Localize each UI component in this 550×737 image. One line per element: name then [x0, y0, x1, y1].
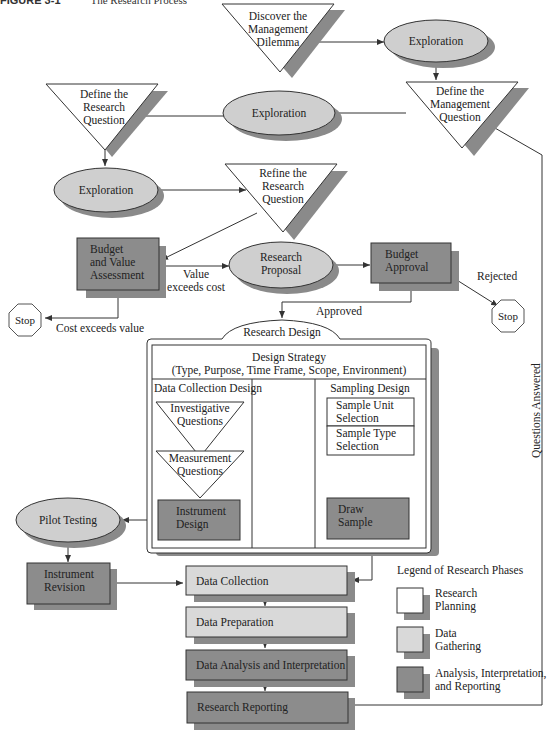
label-research-reporting: Research Reporting [197, 701, 288, 714]
label-exploration-1: Exploration [409, 35, 464, 48]
legend-label-analysis: Analysis, Interpretation,and Reporting [435, 667, 547, 693]
design-strategy-title: Design Strategy [252, 351, 326, 364]
node-draw-sample[interactable]: DrawSample [327, 498, 409, 539]
legend-item-planning: ResearchPlanning [397, 587, 477, 620]
node-define-research[interactable]: Define theResearchQuestion [46, 84, 168, 157]
label-refine: Refine theResearchQuestion [259, 167, 307, 205]
edge-label-questions-answered: Questions Answered [530, 363, 542, 458]
node-define-mgmt[interactable]: Define theManagementQuestion [406, 82, 529, 156]
node-exploration-1[interactable]: Exploration [384, 20, 495, 68]
node-research-reporting[interactable]: Research Reporting [187, 692, 355, 730]
sampling-design-title: Sampling Design [330, 382, 410, 395]
research-process-diagram: Discover theManagementDilemma Define the… [0, 0, 550, 737]
node-refine[interactable]: Refine theResearchQuestion [225, 164, 348, 240]
design-strategy-subtitle: (Type, Purpose, Time Frame, Scope, Envir… [172, 364, 407, 377]
research-design-title: Research Design [243, 326, 321, 339]
edge-label-cost-exceeds: Cost exceeds value [56, 322, 144, 334]
node-sample-type[interactable]: Sample TypeSelection [327, 426, 414, 455]
legend-title: Legend of Research Phases [397, 564, 524, 577]
node-data-collection[interactable]: Data Collection [186, 566, 355, 602]
label-data-analysis: Data Analysis and Interpretation [196, 659, 345, 672]
label-data-collection: Data Collection [196, 575, 269, 587]
label-proposal: ResearchProposal [260, 251, 302, 277]
label-investigative: InvestigativeQuestions [170, 402, 229, 427]
label-measurement: MeasurementQuestions [169, 452, 232, 477]
edge-label-rejected: Rejected [477, 270, 517, 283]
edge-label-approved: Approved [316, 305, 362, 318]
node-discover[interactable]: Discover theManagementDilemma [222, 4, 345, 78]
legend-item-analysis: Analysis, Interpretation,and Reporting [397, 667, 547, 699]
label-exploration-2: Exploration [252, 107, 307, 120]
edge-label-value-exceeds: Valueexceeds cost [167, 268, 226, 293]
data-collection-design-title: Data Collection Design [154, 382, 262, 395]
stop-right-label: Stop [498, 310, 519, 322]
label-data-preparation: Data Preparation [196, 616, 274, 629]
node-budget-approval[interactable]: BudgetApproval [371, 243, 459, 291]
node-budget-value[interactable]: Budgetand ValueAssessment [77, 238, 166, 298]
node-proposal[interactable]: ResearchProposal [229, 242, 339, 294]
legend: Legend of Research Phases ResearchPlanni… [397, 564, 547, 699]
stop-left[interactable]: Stop [9, 304, 41, 336]
legend-label-gathering: DataGathering [435, 627, 481, 653]
stop-left-label: Stop [15, 314, 36, 326]
node-instrument-revision[interactable]: InstrumentRevision [27, 563, 117, 610]
node-exploration-3[interactable]: Exploration [54, 168, 164, 218]
node-pilot[interactable]: Pilot Testing [16, 498, 126, 548]
stop-right[interactable]: Stop [492, 300, 524, 332]
legend-label-planning: ResearchPlanning [435, 587, 477, 613]
node-sample-unit[interactable]: Sample UnitSelection [327, 398, 414, 426]
label-pilot: Pilot Testing [39, 514, 97, 527]
node-data-preparation[interactable]: Data Preparation [186, 607, 355, 644]
node-instrument-design[interactable]: InstrumentDesign [158, 500, 240, 540]
node-exploration-2[interactable]: Exploration [223, 91, 342, 141]
node-data-analysis[interactable]: Data Analysis and Interpretation [186, 650, 355, 687]
legend-item-gathering: DataGathering [397, 627, 481, 659]
label-exploration-3: Exploration [79, 184, 134, 197]
label-define-research: Define theResearchQuestion [80, 88, 128, 126]
